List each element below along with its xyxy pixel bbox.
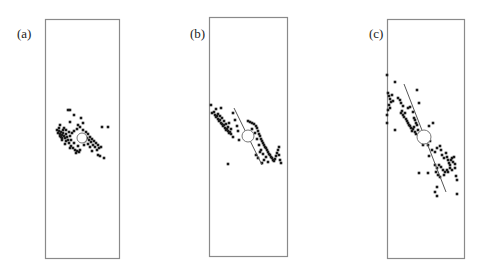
- data-point: [92, 144, 95, 147]
- data-point: [427, 172, 430, 175]
- data-point: [66, 136, 69, 139]
- data-point: [418, 172, 421, 175]
- data-point: [415, 122, 418, 125]
- data-point: [232, 112, 235, 115]
- data-point: [69, 147, 72, 150]
- data-point: [59, 135, 62, 138]
- data-point: [435, 171, 438, 174]
- data-point: [58, 127, 61, 130]
- data-point: [64, 143, 67, 146]
- data-point: [394, 81, 397, 84]
- data-point: [278, 146, 281, 149]
- data-point: [62, 132, 65, 135]
- data-point: [232, 136, 235, 139]
- center-circle-marker: [77, 133, 87, 143]
- data-point: [217, 113, 220, 116]
- data-point: [257, 130, 260, 133]
- data-point: [91, 150, 94, 153]
- data-point: [386, 74, 389, 77]
- data-point: [82, 122, 85, 125]
- data-point: [388, 95, 391, 98]
- data-point: [227, 163, 230, 166]
- data-point: [79, 149, 82, 152]
- data-point: [440, 149, 443, 152]
- data-point: [256, 138, 259, 141]
- data-point: [454, 163, 457, 166]
- data-point: [77, 124, 80, 127]
- data-point: [61, 139, 64, 142]
- data-point: [65, 140, 68, 143]
- data-point: [428, 155, 431, 158]
- data-point: [391, 94, 394, 97]
- data-point: [388, 104, 391, 107]
- data-point: [101, 126, 104, 129]
- data-point: [263, 159, 266, 162]
- data-point: [445, 152, 448, 155]
- data-point: [442, 169, 445, 172]
- data-point: [87, 143, 90, 146]
- panel-c: [386, 20, 465, 259]
- data-point: [230, 128, 233, 131]
- data-point: [412, 111, 415, 114]
- data-point: [394, 129, 397, 132]
- data-point: [65, 133, 68, 136]
- data-point: [404, 112, 407, 115]
- panel-b: [210, 18, 288, 257]
- data-point: [409, 106, 412, 109]
- data-point: [259, 135, 262, 138]
- data-point: [82, 129, 85, 132]
- data-point: [431, 149, 434, 152]
- data-point: [77, 145, 80, 148]
- data-point: [68, 131, 71, 134]
- data-point: [230, 133, 233, 136]
- data-point: [97, 144, 100, 147]
- data-point: [453, 156, 456, 159]
- data-point: [386, 114, 389, 117]
- data-point: [99, 155, 102, 158]
- data-point: [417, 129, 420, 132]
- data-point: [228, 122, 231, 125]
- data-point: [68, 142, 71, 145]
- data-point: [413, 117, 416, 120]
- data-point: [220, 107, 223, 110]
- data-point: [103, 157, 106, 160]
- data-point: [456, 179, 459, 182]
- data-point: [100, 146, 103, 149]
- data-point: [456, 193, 459, 196]
- data-point: [386, 122, 389, 125]
- data-point: [258, 144, 261, 147]
- data-point: [236, 125, 239, 128]
- data-point: [265, 156, 268, 159]
- data-point: [238, 139, 241, 142]
- data-point: [96, 149, 99, 152]
- data-point: [278, 154, 281, 157]
- data-point: [70, 139, 73, 142]
- data-point: [455, 175, 458, 178]
- data-point: [267, 161, 270, 164]
- data-point: [441, 154, 444, 157]
- data-point: [65, 129, 68, 132]
- data-point: [443, 174, 446, 177]
- data-point: [447, 159, 450, 162]
- data-point: [418, 102, 421, 105]
- data-point: [279, 159, 282, 162]
- center-circle-marker: [417, 130, 431, 144]
- data-point: [213, 111, 216, 114]
- data-point: [215, 108, 218, 111]
- data-point: [399, 99, 402, 102]
- data-point: [80, 117, 83, 120]
- data-point: [234, 119, 237, 122]
- data-point: [89, 146, 92, 149]
- panel-a: [46, 20, 120, 259]
- data-point: [251, 128, 254, 131]
- data-point: [439, 145, 442, 148]
- data-point: [432, 122, 435, 125]
- data-point: [443, 157, 446, 160]
- data-point: [436, 186, 439, 189]
- data-point: [277, 149, 280, 152]
- data-point: [274, 158, 277, 161]
- data-point: [87, 133, 90, 136]
- data-point: [256, 127, 259, 130]
- data-point: [389, 98, 392, 101]
- data-point: [260, 149, 263, 152]
